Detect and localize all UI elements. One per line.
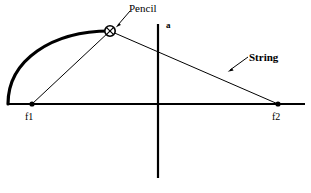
ellipse-arc (8, 31, 110, 104)
semi-axis-label: a (166, 21, 171, 30)
focus-right-label: f2 (272, 112, 280, 122)
ellipse-construction-figure: Pencil a String f1 f2 (0, 0, 311, 193)
focus-left-dot (29, 101, 34, 106)
string-segment-left (32, 31, 110, 104)
focus-right-dot (275, 101, 280, 106)
string-leader-arrow-icon (228, 57, 248, 72)
string-segment-right (110, 31, 278, 104)
pencil-marker-icon (105, 26, 115, 36)
pencil-label: Pencil (129, 3, 157, 14)
pencil-leader-arrow-icon (116, 11, 130, 28)
string-label: String (249, 52, 278, 63)
figure-canvas (0, 0, 311, 193)
focus-left-label: f1 (25, 112, 33, 122)
